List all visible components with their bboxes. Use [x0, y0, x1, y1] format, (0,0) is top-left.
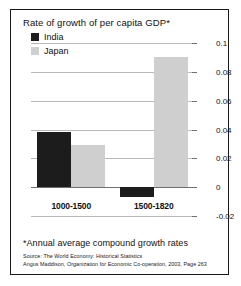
y-axis-tick-label: 0.1 — [216, 39, 227, 48]
legend-swatch-icon-japan — [31, 47, 39, 55]
chart-source-line-1: Source: The World Economy: Historical St… — [23, 253, 142, 259]
chart-figure: Rate of growth of per capita GDP* 0.10.0… — [10, 9, 229, 275]
tickmark-y-0.08 — [192, 72, 197, 73]
gridline-y-0 — [31, 187, 192, 188]
bar-japan-1000-1500 — [71, 145, 105, 187]
tickmark-y-0.04 — [192, 130, 197, 131]
chart-source-line-2: Angus Maddison, Organization for Economi… — [23, 261, 207, 267]
bar-india-1000-1500 — [37, 132, 71, 187]
y-axis-tick-label: 0 — [216, 183, 220, 192]
tickmark-y-0.1 — [192, 43, 197, 44]
chart-footnote: *Annual average compound growth rates — [23, 238, 188, 248]
tickmark-y--0.02 — [192, 216, 197, 217]
y-axis-tick-label: 0.08 — [216, 67, 232, 76]
legend-label-japan: Japan — [44, 46, 69, 56]
plot-area: 0.10.080.060.040.020-0.021000-15001500-1… — [31, 43, 192, 216]
tickmark-y-0.06 — [192, 101, 197, 102]
chart-title: Rate of growth of per capita GDP* — [23, 17, 170, 28]
x-axis-category-label: 1500-1820 — [134, 201, 174, 211]
legend-label-india: India — [44, 32, 64, 42]
bar-japan-1500-1820 — [154, 57, 188, 187]
y-axis-tick-label: 0.02 — [216, 154, 232, 163]
tickmark-y-0.02 — [192, 158, 197, 159]
chart-legend: India Japan — [31, 32, 69, 60]
legend-item-india: India — [31, 32, 69, 42]
legend-swatch-icon-india — [31, 33, 39, 41]
legend-item-japan: Japan — [31, 46, 69, 56]
x-axis-category-label: 1000-1500 — [51, 201, 91, 211]
tickmark-y-0 — [192, 187, 197, 188]
y-axis-tick-label: 0.06 — [216, 96, 232, 105]
y-axis-tick-label: 0.04 — [216, 125, 232, 134]
gridline-y--0.02 — [31, 216, 192, 217]
bar-india-1500-1820 — [120, 187, 154, 197]
y-axis-tick-label: -0.02 — [216, 212, 234, 221]
